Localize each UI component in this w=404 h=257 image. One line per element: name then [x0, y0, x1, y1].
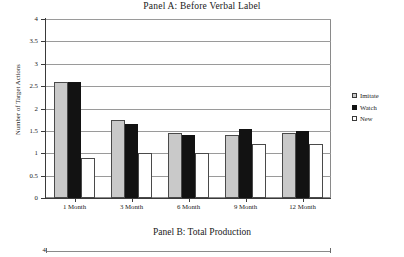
- y-axis-tick-label: 2: [14, 105, 38, 112]
- figure: Panel A: Before Verbal Label Number of T…: [0, 0, 404, 257]
- bar-imitate: [282, 133, 296, 198]
- bar-new: [252, 144, 266, 198]
- y-axis-tick-label: 0.5: [14, 172, 38, 179]
- x-axis-tick-label: 12 Month: [276, 203, 330, 210]
- x-axis-line: [45, 198, 331, 199]
- x-axis-tick-mark: [75, 198, 76, 202]
- legend-swatch-icon: [352, 93, 357, 98]
- bar-new: [309, 144, 323, 198]
- bar-group: [217, 19, 274, 198]
- bar-group: [160, 19, 217, 198]
- bar-watch: [239, 129, 253, 198]
- legend-swatch-icon: [352, 105, 357, 110]
- panel-a-title: Panel A: Before Verbal Label: [0, 1, 404, 11]
- y-axis-tick-mark: [41, 86, 46, 87]
- y-axis-tick-label: 0: [14, 194, 38, 201]
- x-axis-tick-label: 1 Month: [48, 203, 102, 210]
- panel-b-title: Panel B: Total Production: [0, 227, 404, 237]
- bar-new: [81, 158, 95, 198]
- y-axis-tick-label: 3.5: [14, 37, 38, 44]
- y-axis-tick-mark: [41, 109, 46, 110]
- panel-b-axis-line: [46, 251, 331, 252]
- bar-new: [138, 153, 152, 198]
- bar-group: [103, 19, 160, 198]
- legend-item-new[interactable]: New: [352, 113, 404, 125]
- panel-a: Panel A: Before Verbal Label Number of T…: [0, 0, 404, 218]
- legend-swatch-icon: [352, 116, 357, 121]
- legend-item-imitate[interactable]: Imitate: [352, 90, 404, 102]
- bar-imitate: [111, 120, 125, 198]
- x-axis-tick-mark: [303, 198, 304, 202]
- y-axis-tick-mark: [41, 19, 46, 20]
- x-axis-tick-label: 3 Month: [105, 203, 159, 210]
- x-axis-tick-label: 6 Month: [162, 203, 216, 210]
- y-axis-tick-mark: [41, 41, 46, 42]
- bar-imitate: [168, 133, 182, 198]
- panel-b: Panel B: Total Production 4: [0, 218, 404, 257]
- bar-imitate: [225, 135, 239, 198]
- bar-watch: [182, 135, 196, 198]
- panel-b-axis-right-cap: [330, 248, 331, 253]
- panel-b-axis-left-cap: [46, 248, 47, 253]
- y-axis-tick-mark: [41, 153, 46, 154]
- bar-watch: [296, 131, 310, 198]
- y-axis-tick-mark: [41, 176, 46, 177]
- plot-area: [46, 19, 331, 198]
- bar-new: [195, 153, 209, 198]
- legend-label: Imitate: [360, 92, 379, 99]
- x-axis-tick-mark: [189, 198, 190, 202]
- x-axis-tick-mark: [246, 198, 247, 202]
- panel-b-top-tick-label: 4: [22, 246, 46, 253]
- x-axis-tick-mark: [132, 198, 133, 202]
- bar-groups: [46, 19, 331, 198]
- y-axis-tick-mark: [41, 131, 46, 132]
- legend-label: Watch: [360, 104, 377, 111]
- y-axis-tick-label: 4: [14, 15, 38, 22]
- bar-group: [46, 19, 103, 198]
- bar-watch: [125, 124, 139, 198]
- y-axis-tick-label: 1.5: [14, 127, 38, 134]
- legend: ImitateWatchNew: [352, 90, 404, 125]
- y-axis-tick-mark: [41, 198, 46, 199]
- x-axis-tick-label: 9 Month: [219, 203, 273, 210]
- bar-group: [274, 19, 331, 198]
- bar-watch: [68, 82, 82, 198]
- bar-imitate: [54, 82, 68, 198]
- y-axis-tick-mark: [41, 64, 46, 65]
- legend-item-watch[interactable]: Watch: [352, 102, 404, 114]
- y-axis-tick-label: 1: [14, 149, 38, 156]
- legend-label: New: [360, 115, 372, 122]
- y-axis-tick-label: 2.5: [14, 82, 38, 89]
- y-axis-tick-label: 3: [14, 60, 38, 67]
